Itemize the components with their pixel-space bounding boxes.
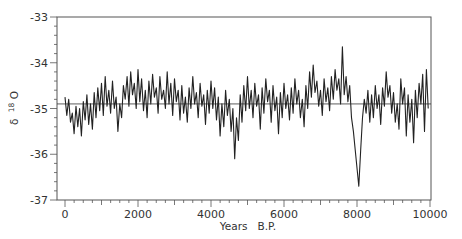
plot-frame <box>57 17 431 200</box>
y-tick-label: -33 <box>30 11 48 24</box>
x-tick-label: 0 <box>62 208 69 221</box>
data-series-line <box>65 47 428 187</box>
y-tick-label: -37 <box>30 194 48 207</box>
y-tick-label: -35 <box>30 103 48 116</box>
x-axis-label: Years B.P. <box>219 220 276 232</box>
y-label-delta: δ <box>8 119 20 125</box>
x-tick-label: 10000 <box>413 208 448 221</box>
y-axis-label: δ 18 O <box>4 91 20 125</box>
svg-text:δ 18 O: δ 18 O <box>4 91 20 125</box>
y-tick-label: -36 <box>30 148 48 161</box>
x-tick-label: 8000 <box>343 208 371 221</box>
y-tick-label: -34 <box>30 57 48 70</box>
x-tick-label: 2000 <box>124 208 152 221</box>
y-axis-ticks: -33-34-35-36-37 <box>30 11 57 207</box>
y-label-element: O <box>8 91 20 99</box>
x-axis-ticks: 0200040006000800010000 <box>62 200 448 221</box>
chart: -33-34-35-36-37 0200040006000800010000 δ… <box>0 0 462 239</box>
y-label-superscript: 18 <box>7 102 16 112</box>
